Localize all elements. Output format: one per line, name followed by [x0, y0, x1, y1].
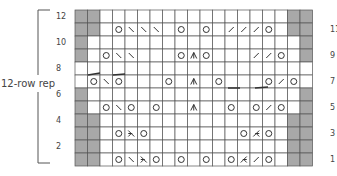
stitch-cell: [88, 49, 101, 62]
no-stitch-cell: [88, 127, 101, 140]
stitch-cell: [75, 75, 88, 88]
no-stitch-cell: [300, 140, 313, 153]
stitch-cell: [288, 101, 301, 114]
no-stitch-cell: [300, 153, 313, 166]
stitch-cell: [163, 36, 176, 49]
stitch-cell: [175, 114, 188, 127]
no-stitch-cell: [300, 23, 313, 36]
stitch-cell: [100, 10, 113, 23]
stitch-cell: [250, 140, 263, 153]
stitch-cell: [175, 88, 188, 101]
stitch-cell: [163, 23, 176, 36]
stitch-cell: [163, 88, 176, 101]
stitch-cell: [288, 49, 301, 62]
stitch-cell: [213, 23, 226, 36]
stitch-cell: [163, 49, 176, 62]
stitch-cell: [213, 75, 226, 88]
stitch-cell: [188, 23, 201, 36]
stitch-cell: [88, 75, 101, 88]
stitch-cell: [263, 88, 276, 101]
stitch-cell: [213, 140, 226, 153]
stitch-cell: [200, 62, 213, 75]
stitch-cell: [125, 36, 138, 49]
stitch-cell: [188, 114, 201, 127]
stitch-cell: [163, 114, 176, 127]
stitch-cell: [138, 49, 151, 62]
stitch-cell: [100, 49, 113, 62]
no-stitch-cell: [75, 153, 88, 166]
stitch-cell: [238, 62, 251, 75]
stitch-cell: [238, 127, 251, 140]
no-stitch-cell: [75, 140, 88, 153]
no-stitch-cell: [300, 88, 313, 101]
stitch-cell: [100, 127, 113, 140]
no-stitch-cell: [75, 88, 88, 101]
chart-grid: [75, 10, 313, 166]
stitch-cell: [275, 101, 288, 114]
stitch-cell: [275, 62, 288, 75]
row-label-12: 12: [56, 12, 66, 22]
stitch-cell: [213, 49, 226, 62]
stitch-cell: [138, 101, 151, 114]
stitch-cell: [288, 88, 301, 101]
stitch-cell: [113, 62, 126, 75]
stitch-cell: [188, 10, 201, 23]
stitch-cell: [213, 36, 226, 49]
stitch-cell: [275, 88, 288, 101]
stitch-cell: [263, 114, 276, 127]
row-label-11: 11: [330, 25, 337, 35]
stitch-cell: [150, 75, 163, 88]
stitch-cell: [288, 75, 301, 88]
row-label-2: 2: [56, 142, 61, 152]
stitch-cell: [238, 101, 251, 114]
stitch-cell: [125, 62, 138, 75]
no-stitch-cell: [75, 114, 88, 127]
stitch-cell: [100, 140, 113, 153]
stitch-cell: [275, 23, 288, 36]
stitch-cell: [175, 153, 188, 166]
no-stitch-cell: [75, 36, 88, 49]
no-stitch-cell: [75, 23, 88, 36]
stitch-cell: [113, 140, 126, 153]
stitch-cell: [150, 10, 163, 23]
stitch-cell: [213, 10, 226, 23]
stitch-cell: [88, 101, 101, 114]
no-stitch-cell: [88, 114, 101, 127]
stitch-cell: [238, 75, 251, 88]
stitch-cell: [225, 140, 238, 153]
stitch-cell: [200, 140, 213, 153]
stitch-cell: [225, 49, 238, 62]
stitch-cell: [238, 49, 251, 62]
no-stitch-cell: [88, 140, 101, 153]
stitch-cell: [175, 10, 188, 23]
no-stitch-cell: [300, 114, 313, 127]
stitch-cell: [250, 10, 263, 23]
stitch-cell: [263, 75, 276, 88]
stitch-cell: [213, 114, 226, 127]
stitch-cell: [138, 140, 151, 153]
stitch-cell: [113, 88, 126, 101]
stitch-cell: [75, 62, 88, 75]
stitch-cell: [300, 62, 313, 75]
stitch-cell: [250, 101, 263, 114]
row-label-3: 3: [330, 129, 335, 139]
stitch-cell: [213, 153, 226, 166]
stitch-cell: [138, 10, 151, 23]
stitch-cell: [275, 140, 288, 153]
stitch-cell: [250, 75, 263, 88]
stitch-cell: [150, 114, 163, 127]
stitch-cell: [138, 36, 151, 49]
stitch-cell: [175, 75, 188, 88]
stitch-cell: [113, 75, 126, 88]
stitch-cell: [288, 62, 301, 75]
stitch-cell: [150, 88, 163, 101]
stitch-cell: [100, 101, 113, 114]
stitch-cell: [188, 88, 201, 101]
stitch-cell: [200, 10, 213, 23]
row-label-9: 9: [330, 51, 335, 61]
stitch-cell: [288, 36, 301, 49]
stitch-cell: [188, 36, 201, 49]
stitch-cell: [213, 62, 226, 75]
no-stitch-cell: [288, 23, 301, 36]
stitch-cell: [200, 23, 213, 36]
